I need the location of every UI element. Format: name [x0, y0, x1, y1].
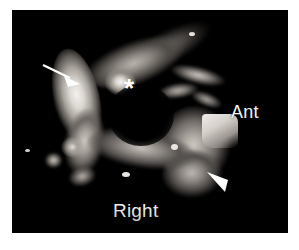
tissue-lower-left-blob-c: [66, 162, 101, 191]
tissue-lower-left-blob-a: [60, 136, 86, 160]
central-cavity: [108, 84, 174, 146]
figure-panel: * Ant Right: [0, 0, 299, 250]
arrow-marker: [43, 65, 80, 89]
tissue-lower-arch: [83, 120, 199, 183]
echo-speck-top: [189, 32, 195, 36]
asterisk-marker: *: [124, 73, 135, 103]
tissue-lower-left-blob-b: [44, 152, 64, 170]
tissue-right-lower-mass: [162, 150, 224, 202]
tissue-right-strand-upper: [168, 59, 229, 92]
tissue-upper-arch: [78, 15, 194, 101]
orientation-label-right: Right: [113, 200, 158, 222]
arrowhead-marker: [207, 172, 228, 192]
ultrasound-image-frame: * Ant Right: [12, 10, 288, 233]
tissue-upper-faint-band: [119, 10, 225, 83]
echo-speck-middle: [171, 144, 178, 150]
echo-speck-bottom: [122, 172, 130, 177]
tissue-left-lower-limb: [58, 105, 110, 183]
tissue-left-crescent: [43, 44, 110, 157]
tissue-central-node: [104, 68, 138, 98]
tissue-right-mass: [158, 106, 232, 186]
tissue-right-strand-middle: [157, 79, 201, 103]
echo-speck-left: [25, 149, 30, 152]
tissue-right-strand-lower: [188, 86, 226, 114]
orientation-label-anterior: Ant: [231, 102, 259, 123]
